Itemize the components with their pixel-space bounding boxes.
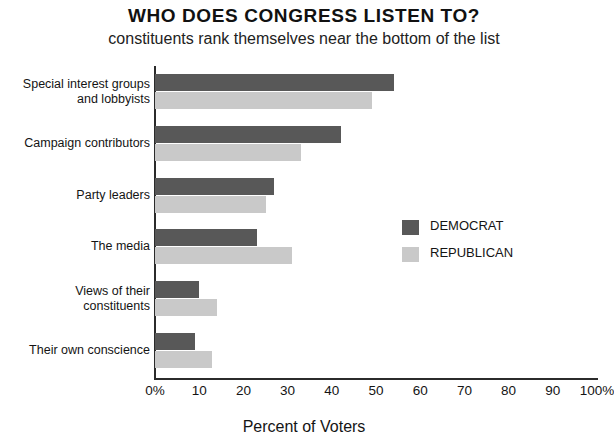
x-tick-100: 100% [580, 383, 614, 398]
legend-swatch-icon [402, 220, 419, 235]
chart-title: WHO DOES CONGRESS LISTEN TO? [0, 5, 608, 27]
bar-democrat [155, 333, 195, 350]
x-tick-10: 10 [192, 383, 207, 398]
x-tick-0: 0% [145, 383, 165, 398]
legend-swatch-icon [402, 247, 419, 262]
x-tick-20: 20 [236, 383, 251, 398]
y-axis-label-line: Their own conscience [0, 343, 150, 358]
x-tick-50: 50 [368, 383, 383, 398]
bar-republican [155, 196, 266, 213]
y-axis-label: Their own conscience [0, 343, 150, 358]
y-axis-label-line: Views of their [0, 284, 150, 299]
bar-republican [155, 92, 372, 109]
x-tick-60: 60 [413, 383, 428, 398]
legend-label: REPUBLICAN [430, 245, 513, 260]
chart-subtitle: constituents rank themselves near the bo… [0, 30, 608, 48]
bar-democrat [155, 281, 199, 298]
x-tick-90: 90 [545, 383, 560, 398]
y-axis-label-line: constituents [0, 299, 150, 314]
bar-republican [155, 247, 292, 264]
legend-label: DEMOCRAT [430, 218, 503, 233]
y-axis-label: Views of theirconstituents [0, 284, 150, 314]
bar-republican [155, 299, 217, 316]
y-axis-label-line: Special interest groups [0, 77, 150, 92]
x-tick-70: 70 [457, 383, 472, 398]
bar-democrat [155, 229, 257, 246]
bar-democrat [155, 126, 341, 143]
x-axis-line [155, 378, 598, 380]
bar-democrat [155, 74, 394, 91]
x-axis-title: Percent of Voters [0, 418, 608, 436]
x-tick-80: 80 [501, 383, 516, 398]
x-tick-30: 30 [280, 383, 295, 398]
y-axis-label-line: and lobbyists [0, 92, 150, 107]
bar-group [155, 275, 597, 327]
bar-group [155, 326, 597, 378]
bar-group [155, 120, 597, 172]
bar-democrat [155, 178, 274, 195]
y-axis-label: The media [0, 239, 150, 254]
y-axis-label-line: The media [0, 239, 150, 254]
y-axis-label-line: Campaign contributors [0, 136, 150, 151]
y-axis-label: Party leaders [0, 188, 150, 203]
bar-group [155, 171, 597, 223]
y-axis-label-line: Party leaders [0, 188, 150, 203]
y-axis-label: Campaign contributors [0, 136, 150, 151]
x-tick-40: 40 [324, 383, 339, 398]
y-axis-label: Special interest groupsand lobbyists [0, 77, 150, 107]
bar-group [155, 223, 597, 275]
plot-area [155, 68, 597, 378]
bar-republican [155, 144, 301, 161]
bar-group [155, 68, 597, 120]
bar-republican [155, 351, 212, 368]
